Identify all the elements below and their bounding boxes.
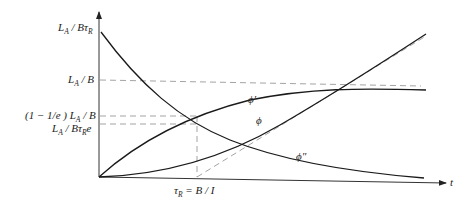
x-label-tau-r: τR = B / I — [174, 184, 216, 199]
y-label-la-btre: LA / BτRe — [51, 122, 92, 137]
la-b-guide — [100, 80, 421, 86]
x-axis-label-t: t — [450, 176, 454, 188]
y-label-la-b: LA / B — [67, 73, 94, 88]
y-label-one-minus: (1 − 1/e ) LA / B — [25, 109, 96, 124]
phi-prime-label: ϕ′ — [248, 93, 257, 105]
x-axis — [99, 177, 446, 183]
y-label-la-btr: LA / BτR — [57, 21, 93, 36]
phi-curves-diagram: ϕ′ ϕ ϕ″ LA / BτR LA / B (1 − 1/e ) LA / … — [0, 0, 473, 203]
phi-double-prime-label: ϕ″ — [296, 150, 307, 162]
phi-label: ϕ — [256, 114, 262, 126]
phi-prime-curve — [99, 89, 426, 177]
phi-curve — [99, 34, 426, 177]
phi-double-prime-curve — [101, 32, 424, 178]
